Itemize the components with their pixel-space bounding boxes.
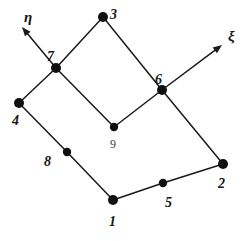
edge-1-8	[67, 152, 113, 200]
node-marker-2[interactable]	[218, 159, 228, 169]
edge-3-6	[103, 17, 162, 90]
axis-label-xi: ξ	[228, 29, 235, 44]
element-diagram: 123456789ηξ	[0, 0, 245, 241]
node-marker-4[interactable]	[14, 98, 24, 108]
edge-5-1	[113, 183, 163, 200]
axis-xi-arrowhead-icon	[213, 45, 222, 53]
node-marker-7[interactable]	[51, 63, 61, 73]
edge-2-5	[163, 164, 223, 183]
edge-7-3	[56, 17, 103, 68]
axis-label-eta: η	[24, 10, 32, 25]
node-marker-3[interactable]	[98, 12, 108, 22]
edge-8-4	[19, 103, 67, 152]
edge-layer	[19, 17, 223, 200]
diagram-canvas	[0, 0, 245, 241]
edge-9-6	[114, 90, 162, 127]
axis-xi-shaft	[162, 50, 215, 90]
node-marker-1[interactable]	[108, 195, 118, 205]
node-marker-9[interactable]	[110, 123, 118, 131]
node-layer	[14, 12, 228, 205]
node-label-2: 2	[218, 177, 225, 191]
node-label-6: 6	[155, 73, 162, 87]
node-marker-5[interactable]	[159, 179, 167, 187]
edge-6-2	[162, 90, 223, 164]
node-marker-8[interactable]	[63, 148, 71, 156]
edge-4-7	[19, 68, 56, 103]
node-label-7: 7	[47, 50, 54, 64]
edge-7-9	[56, 68, 114, 127]
node-label-8: 8	[44, 155, 51, 169]
axis-xi	[162, 45, 222, 90]
node-label-1: 1	[109, 215, 116, 229]
node-label-3: 3	[110, 8, 117, 22]
node-label-5: 5	[165, 196, 172, 210]
node-label-9: 9	[110, 138, 116, 150]
node-label-4: 4	[12, 114, 19, 128]
